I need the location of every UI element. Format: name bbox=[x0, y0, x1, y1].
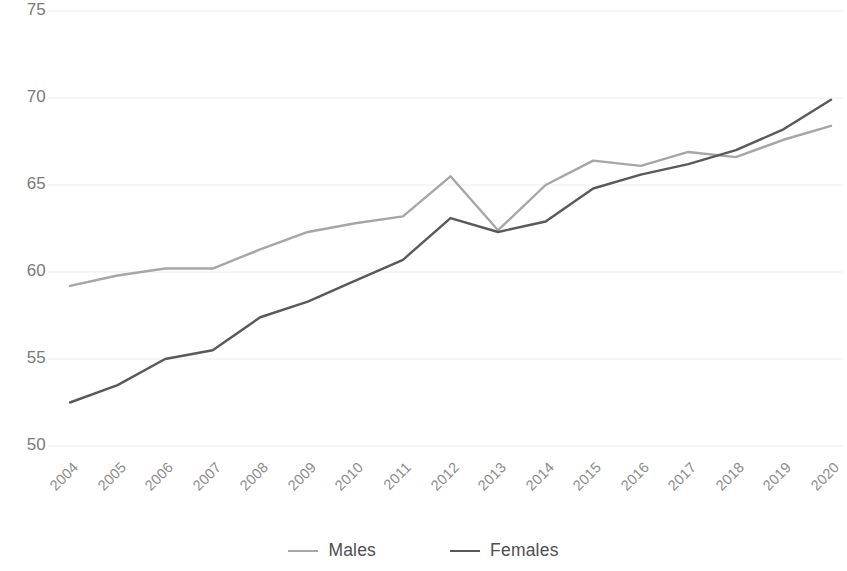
chart-legend: MalesFemales bbox=[0, 540, 847, 561]
y-axis-tick-65: 65 bbox=[2, 174, 46, 194]
series-line-females bbox=[70, 100, 831, 403]
legend-label: Males bbox=[328, 540, 376, 561]
legend-line-swatch-females bbox=[450, 550, 480, 552]
legend-line-swatch-males bbox=[288, 550, 318, 552]
legend-label: Females bbox=[490, 540, 559, 561]
gridlines bbox=[48, 11, 843, 446]
legend-item-females[interactable]: Females bbox=[450, 540, 559, 561]
series-line-males bbox=[70, 126, 831, 286]
y-axis-tick-60: 60 bbox=[2, 261, 46, 281]
y-axis-tick-50: 50 bbox=[2, 435, 46, 455]
y-axis-tick-75: 75 bbox=[2, 0, 46, 20]
legend-item-males[interactable]: Males bbox=[288, 540, 376, 561]
y-axis-tick-70: 70 bbox=[2, 87, 46, 107]
series-lines bbox=[70, 100, 831, 403]
line-chart: 757065605550 200420052006200720082009201… bbox=[0, 0, 847, 571]
y-axis-tick-55: 55 bbox=[2, 348, 46, 368]
